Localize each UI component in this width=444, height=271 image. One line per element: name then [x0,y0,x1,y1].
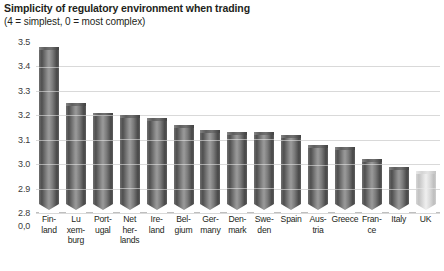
y-axis-tick-labels: 3.53.43.33.23.13.02.92.80,0 [4,0,32,271]
axis-break-notch [335,199,355,213]
axis-break-notch [93,199,113,213]
x-label-line: Fran- [357,214,387,225]
x-label-line: lands [115,235,145,246]
y-tick-label: 3.1 [4,135,30,145]
x-label-denmark: Den-mark [222,214,252,235]
x-label-line: Ire- [142,214,172,225]
bar-gridline [93,115,113,116]
bar-cap [227,132,247,135]
bar-gridline [308,165,328,166]
x-label-line: many [195,225,225,236]
bar-cap [389,167,409,170]
x-label-greece: Greece [330,214,360,225]
bar-gridline [39,91,59,92]
x-label-line: burg [61,235,91,246]
x-label-line: ugal [88,225,118,236]
x-label-line: Aus- [303,214,333,225]
axis-break-notch [254,199,274,213]
bar-cap [335,147,355,150]
axis-break-notch [147,199,167,213]
bar-portugal[interactable] [93,113,113,213]
x-label-spain: Spain [276,214,306,225]
y-tick-label: 3.5 [4,37,30,47]
x-label-line: Italy [384,214,414,225]
x-axis-category-labels: Fin-landLuxem-burgPort-ugalNether-landsI… [36,214,440,270]
axis-break-notch [281,199,301,213]
bar-cap [416,171,436,174]
x-label-line: her- [115,225,145,236]
chart-title: Simplicity of regulatory environment whe… [4,2,250,14]
x-label-line: Ger- [195,214,225,225]
bar-gridline [66,115,86,116]
bar-gridline [335,189,355,190]
plot-area [36,42,440,213]
y-tick-label: 3.4 [4,61,30,71]
x-label-line: xem- [61,225,91,236]
bar-gridline [66,189,86,190]
x-label-line: gium [169,225,199,236]
bar-gridline [335,164,355,165]
x-label-line: Lu [61,214,91,225]
x-label-line: Port- [88,214,118,225]
bar-gridline [147,164,167,165]
x-label-line: Greece [330,214,360,225]
bar-gridline [362,188,382,189]
x-label-line: Bel- [169,214,199,225]
axis-break-notch [227,199,247,213]
x-label-sweden: Swe-den [249,214,279,235]
bar-gridline [39,115,59,116]
bar-cap [200,130,220,133]
x-label-line: den [249,225,279,236]
x-label-line: Spain [276,214,306,225]
bar-cap [120,115,140,118]
y-tick-label: 3.2 [4,110,30,120]
x-label-line: Swe- [249,214,279,225]
bar-cap [39,47,59,50]
bar-gridline [254,139,274,140]
bar-gridline [200,140,220,141]
axis-break-notch [308,199,328,213]
axis-break-notch [389,199,409,213]
x-label-finland: Fin-land [34,214,64,235]
x-label-line: tria [303,225,333,236]
bar-gridline [308,189,328,190]
x-label-line: land [142,225,172,236]
axis-break-notch [200,199,220,213]
bar-gridline [93,140,113,141]
axis-break-notch [120,199,140,213]
bar-cap [281,135,301,138]
bar-body [66,103,86,213]
bar-cap [174,125,194,128]
bar-cap [147,118,167,121]
bar-cap [66,103,86,106]
bar-cap [362,159,382,162]
bar-gridline [39,67,59,68]
bar-gridline [227,164,247,165]
bar-gridline [227,188,247,189]
bar-gridline [93,189,113,190]
x-label-france: Fran-ce [357,214,387,235]
axis-break-notch [416,199,436,213]
bar-gridline [147,189,167,190]
x-label-austria: Aus-tria [303,214,333,235]
bar-gridline [174,140,194,141]
bar-luxemburg[interactable] [66,103,86,213]
x-label-portugal: Port-ugal [88,214,118,235]
bar-gridline [389,189,409,190]
y-tick-label: 0,0 [4,221,30,231]
axis-break-notch [39,199,59,213]
bar-gridline [93,164,113,165]
y-tick-label: 2.8 [4,208,30,218]
bar-gridline [281,140,301,141]
axis-break-notch [174,199,194,213]
x-label-line: ce [357,225,387,236]
bar-gridline [200,189,220,190]
bar-finland[interactable] [39,47,59,213]
x-label-luxemburg: Luxem-burg [61,214,91,246]
x-label-italy: Italy [384,214,414,225]
bar-gridline [66,164,86,165]
axis-break-notch [362,199,382,213]
bar-gridline [254,164,274,165]
bar-gridline [362,164,382,165]
bar-cap [308,145,328,148]
